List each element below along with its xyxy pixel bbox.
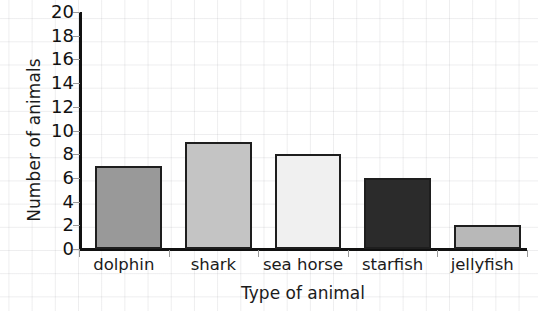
y-tick-label: 18 bbox=[36, 27, 74, 45]
y-axis-tick-labels: 02468101214161820 bbox=[36, 10, 74, 256]
y-tick-label: 6 bbox=[36, 169, 74, 187]
y-tick-label: 14 bbox=[36, 74, 74, 92]
x-axis-title: Type of animal bbox=[79, 283, 527, 303]
y-tick-label: 16 bbox=[36, 50, 74, 68]
bar bbox=[364, 178, 431, 249]
x-tick-label: shark bbox=[169, 256, 259, 274]
bar bbox=[454, 225, 521, 249]
y-tick-label: 12 bbox=[36, 98, 74, 116]
x-tick-label: jellyfish bbox=[437, 256, 527, 274]
bar bbox=[185, 142, 252, 249]
y-tick-label: 2 bbox=[36, 216, 74, 234]
y-tick-label: 4 bbox=[36, 193, 74, 211]
x-tick-label: dolphin bbox=[79, 256, 169, 274]
y-tick-label: 20 bbox=[36, 3, 74, 21]
plot-area bbox=[79, 12, 527, 251]
bar bbox=[275, 154, 342, 249]
y-tick-label: 0 bbox=[36, 240, 74, 258]
bars-group bbox=[79, 12, 527, 251]
bar bbox=[95, 166, 162, 249]
x-tick-label: starfish bbox=[348, 256, 438, 274]
x-axis-tick-labels: dolphinsharksea horsestarfishjellyfish bbox=[79, 256, 531, 282]
y-tick-label: 10 bbox=[36, 122, 74, 140]
y-tick-label: 8 bbox=[36, 145, 74, 163]
x-tick-label: sea horse bbox=[258, 256, 348, 274]
bar-chart: Number of animals 02468101214161820 dolp… bbox=[0, 0, 538, 311]
